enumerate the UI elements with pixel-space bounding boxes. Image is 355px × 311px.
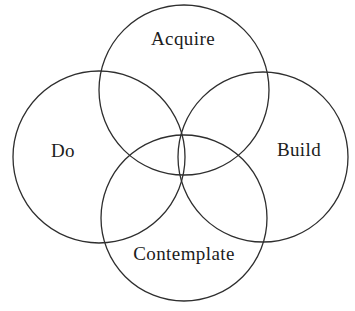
label-do: Do: [51, 140, 75, 161]
venn-diagram: Acquire Do Build Contemplate: [0, 0, 355, 311]
circle-build: [178, 72, 348, 242]
circle-contemplate: [101, 135, 267, 301]
label-contemplate: Contemplate: [133, 243, 235, 264]
label-acquire: Acquire: [151, 28, 215, 49]
venn-diagram-canvas: Acquire Do Build Contemplate: [0, 0, 355, 311]
label-build: Build: [277, 139, 321, 160]
